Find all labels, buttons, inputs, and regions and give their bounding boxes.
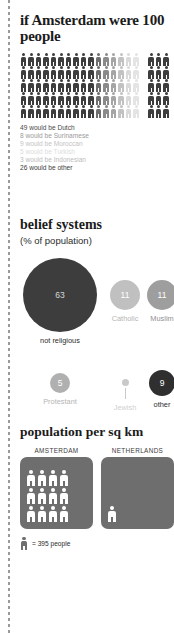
dotted-divider-rule — [8, 0, 10, 633]
person-icon — [20, 53, 28, 66]
density-person-icon — [59, 506, 69, 523]
demographics-legend: 49 would be Dutch8 would be Surinamese9 … — [20, 124, 174, 173]
person-icon — [140, 66, 148, 79]
belief-bubble: 9 — [149, 370, 174, 396]
person-icon — [155, 79, 163, 92]
belief-label: other — [122, 400, 174, 409]
legend-row: 3 would be Indonesian — [20, 156, 174, 164]
person-icon — [148, 66, 156, 79]
person-icon — [118, 105, 126, 118]
person-icon — [88, 105, 96, 118]
person-icon — [125, 66, 133, 79]
legend-row: 26 would be other — [20, 164, 174, 172]
person-icon — [50, 79, 58, 92]
density-header-netherlands: NETHERLANDS — [101, 447, 174, 454]
density-person-icon — [59, 488, 69, 505]
person-icon — [118, 66, 126, 79]
person-icon — [155, 53, 163, 66]
person-icon — [103, 79, 111, 92]
person-icon — [80, 66, 88, 79]
density-person-icon — [59, 470, 69, 487]
legend-row: 9 would be Moroccan — [20, 140, 174, 148]
density-person-icon — [48, 506, 58, 523]
person-icon — [140, 79, 148, 92]
person-icon — [43, 66, 51, 79]
person-icon — [80, 105, 88, 118]
person-key-icon — [20, 537, 28, 551]
person-icon — [163, 105, 171, 118]
person-icon — [163, 66, 171, 79]
density-person-icon — [37, 506, 47, 523]
infographic-page: if Amsterdam were 100 people 49 would be… — [0, 0, 174, 633]
person-icon — [73, 105, 81, 118]
person-icon — [118, 79, 126, 92]
person-icon — [73, 79, 81, 92]
person-icon — [148, 92, 156, 105]
person-icon — [58, 53, 66, 66]
density-panel-headers: AMSTERDAM NETHERLANDS — [20, 447, 174, 454]
person-icon — [50, 66, 58, 79]
person-icon — [20, 79, 28, 92]
person-icon — [80, 92, 88, 105]
person-icon — [103, 66, 111, 79]
person-icon — [133, 53, 141, 66]
belief-bubble: 11 — [147, 280, 174, 310]
density-person-icon — [37, 488, 47, 505]
person-icon — [28, 53, 36, 66]
section-population-density: population per sq km AMSTERDAM NETHERLAN… — [20, 424, 174, 551]
person-icon — [35, 92, 43, 105]
person-icon — [155, 105, 163, 118]
person-icon — [65, 79, 73, 92]
belief-subtitle: (% of population) — [20, 235, 174, 246]
person-icon — [35, 79, 43, 92]
person-icon — [125, 105, 133, 118]
person-icon — [35, 53, 43, 66]
person-icon — [20, 92, 28, 105]
person-icon — [148, 53, 156, 66]
demographics-title: if Amsterdam were 100 people — [20, 0, 174, 44]
density-title: population per sq km — [20, 424, 174, 439]
person-icon — [133, 105, 141, 118]
person-icon — [95, 105, 103, 118]
person-icon — [65, 105, 73, 118]
belief-label: Muslim — [122, 314, 174, 323]
person-icon — [95, 66, 103, 79]
section-demographics: if Amsterdam were 100 people 49 would be… — [20, 0, 174, 173]
legend-row: 8 would be Surinamese — [20, 132, 174, 140]
legend-row: 5 would be Turkish — [20, 148, 174, 156]
person-icon — [133, 79, 141, 92]
person-icon — [118, 53, 126, 66]
person-icon — [65, 53, 73, 66]
person-icon — [50, 53, 58, 66]
person-icon — [50, 92, 58, 105]
person-icon — [88, 92, 96, 105]
person-icon — [133, 66, 141, 79]
density-footnote-text: = 395 people — [32, 540, 70, 547]
person-icon — [103, 53, 111, 66]
person-icon — [110, 92, 118, 105]
person-icon — [95, 92, 103, 105]
person-icon — [88, 53, 96, 66]
density-panel-amsterdam — [20, 457, 93, 529]
person-icon — [95, 53, 103, 66]
person-icon — [163, 53, 171, 66]
person-icon — [163, 92, 171, 105]
density-person-icon — [37, 470, 47, 487]
belief-bubbles-row-1: 63not religious11Catholic11Muslim — [20, 246, 174, 358]
person-icon — [140, 92, 148, 105]
person-icon — [43, 79, 51, 92]
section-belief-systems: belief systems (% of population) 63not r… — [20, 217, 174, 424]
person-icon — [50, 105, 58, 118]
person-icon — [58, 92, 66, 105]
person-icon — [58, 79, 66, 92]
person-icon — [73, 92, 81, 105]
person-icon — [103, 92, 111, 105]
person-icon — [163, 79, 171, 92]
person-icon — [140, 105, 148, 118]
person-icon — [73, 66, 81, 79]
person-icon — [28, 79, 36, 92]
person-icon — [133, 92, 141, 105]
person-icon — [35, 66, 43, 79]
person-icon — [28, 105, 36, 118]
person-icon — [110, 66, 118, 79]
